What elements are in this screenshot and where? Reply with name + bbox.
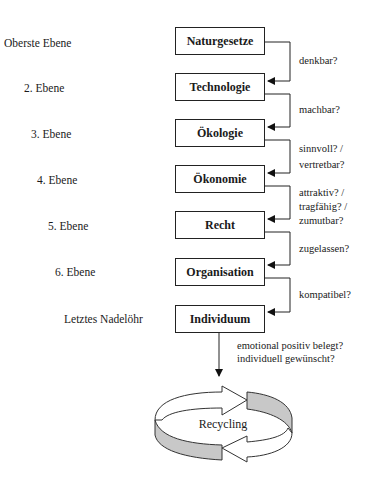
level-label-1: Oberste Ebene [4, 36, 71, 50]
question-line: attraktiv? / [299, 186, 347, 200]
level-label-5: 5. Ebene [48, 219, 88, 233]
question-line: sinnvoll? / [299, 142, 344, 156]
question-1: denkbar? [299, 54, 337, 68]
question-line: tragfähig? / [299, 200, 347, 214]
connector-3 [265, 140, 290, 173]
question-line: vertretbar? [299, 158, 344, 172]
question-line: individuell gewünscht? [237, 352, 343, 365]
connector-4 [265, 186, 290, 219]
question-3: sinnvoll? / vertretbar? [299, 142, 344, 172]
connector-6 [265, 278, 290, 312]
question-line: machbar? [299, 103, 340, 117]
box-label: Individuum [190, 312, 251, 327]
level-label-2: 2. Ebene [24, 81, 64, 95]
recycling-label: Recycling [193, 417, 253, 432]
box-label: Technologie [190, 80, 251, 95]
final-question: emotional positiv belegt? individuell ge… [237, 339, 343, 365]
box-label: Ökologie [197, 126, 243, 141]
level-label-6: 6. Ebene [55, 265, 95, 279]
box-recht: Recht [175, 211, 265, 239]
question-line: zugelassen? [299, 242, 349, 256]
question-5: zugelassen? [299, 242, 349, 256]
question-line: denkbar? [299, 54, 337, 68]
box-technologie: Technologie [175, 73, 265, 101]
box-oekonomie: Ökonomie [175, 165, 265, 193]
level-label-7: Letztes Nadelöhr [64, 312, 143, 326]
question-2: machbar? [299, 103, 340, 117]
question-4: attraktiv? / tragfähig? / zumutbar? [299, 186, 347, 228]
box-naturgesetze: Naturgesetze [175, 27, 265, 55]
box-label: Naturgesetze [187, 34, 254, 49]
box-label: Recht [205, 218, 235, 233]
question-6: kompatibel? [299, 288, 351, 302]
box-oekologie: Ökologie [175, 119, 265, 147]
box-label: Ökonomie [193, 172, 246, 187]
question-line: zumutbar? [299, 214, 347, 228]
level-label-4: 4. Ebene [37, 173, 77, 187]
connector-5 [265, 232, 290, 265]
box-individuum: Individuum [175, 305, 265, 333]
level-label-3: 3. Ebene [31, 127, 71, 141]
box-label: Organisation [186, 265, 253, 280]
connector-2 [265, 94, 290, 127]
question-line: kompatibel? [299, 288, 351, 302]
question-line: emotional positiv belegt? [237, 339, 343, 352]
connector-1 [265, 42, 290, 81]
box-organisation: Organisation [175, 258, 265, 286]
